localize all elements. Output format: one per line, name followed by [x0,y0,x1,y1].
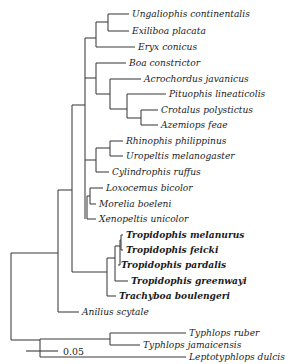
phylogenetic-tree-figure: Ungaliophis continentalisExiliboa placat… [0,0,295,364]
tip-label-boa-constrictor: Boa constrictor [128,58,201,68]
tip-label-xenopeltis-unicolor: Xenopeltis unicolor [98,214,189,224]
tip-label-ungaliophis-continentalis: Ungaliophis continentalis [132,9,250,19]
tip-label-crotalus-polystictus: Crotalus polystictus [161,105,253,115]
tip-label-acrochordus-javanicus: Acrochordus javanicus [143,74,249,84]
tip-label-azemiops-feae: Azemiops feae [160,120,228,130]
tip-label-tropidophis-greenwayi: Tropidophis greenwayi [131,275,247,286]
tip-label-exiliboa-placata: Exiliboa placata [131,26,206,36]
tip-label-morelia-boeleni: Morelia boeleni [98,199,171,209]
tip-label-eryx-conicus: Eryx conicus [137,42,197,52]
tip-label-typhlops-jamaicensis: Typhlops jamaicensis [143,340,242,350]
tip-label-typhlops-ruber: Typhlops ruber [189,328,260,338]
tip-label-tropidophis-feicki: Tropidophis feicki [126,244,219,255]
tip-label-tropidophis-melanurus: Tropidophis melanurus [126,229,244,240]
tip-label-rhinophis-philippinus: Rhinophis philippinus [125,136,227,146]
tip-label-trachyboa-boulengeri: Trachyboa boulengeri [119,290,231,301]
tip-label-cylindrophis-ruffus: Cylindrophis ruffus [112,167,201,177]
scale-bar-label: 0.05 [63,346,84,357]
tip-label-tropidophis-pardalis: Tropidophis pardalis [121,259,226,270]
tip-label-loxocemus-bicolor: Loxocemus bicolor [105,183,193,193]
tip-label-uropeltis-melanogaster: Uropeltis melanogaster [126,151,235,161]
tip-label-pituophis-lineaticolis: Pituophis lineaticolis [168,89,266,99]
tip-label-leptotyphlops-dulcis: Leptotyphlops dulcis [188,352,285,362]
tip-label-anilius-scytale: Anilius scytale [81,307,149,317]
